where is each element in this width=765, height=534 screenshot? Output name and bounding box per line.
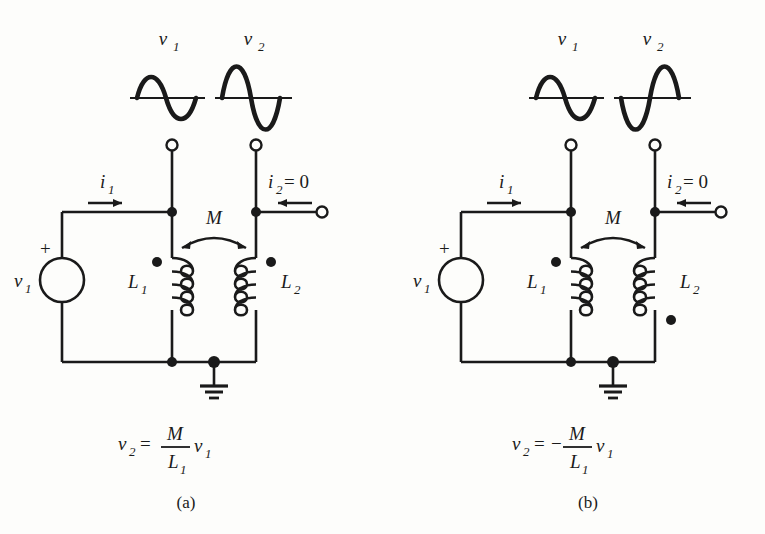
panel-a-waveform-v2-label-text: v (244, 28, 253, 49)
panel-a-waveform-v2 (215, 67, 292, 130)
panel-a-right-terminal-circle[interactable] (317, 207, 328, 218)
panel-a-equation-denominator: L (167, 451, 179, 472)
panel-a-current-i1-sub: 1 (108, 182, 115, 197)
panel-a-current-i2-value: = 0 (284, 171, 309, 192)
panel-a-current-i2-arrow-icon (278, 199, 312, 207)
panel-a-inductor-l1-label: L (127, 271, 139, 292)
panel-a-node-top-right (251, 207, 261, 217)
panel-a-terminal-v2-circle[interactable] (251, 140, 262, 151)
panel-b-current-i2-label: i (667, 171, 672, 192)
panel-b-waveform-v2 (614, 67, 691, 130)
panel-a-right-terminal[interactable] (256, 207, 328, 218)
panel-b-current-i1-arrow-icon (487, 199, 521, 207)
panel-b-terminal-v2-circle[interactable] (650, 140, 661, 151)
figure-container: v 1 v 2 i 1 (0, 0, 765, 534)
panel-b-waveform-v2-label: v 2 (643, 28, 664, 54)
panel-b-equation-rhs-sub: 1 (607, 446, 614, 461)
panel-a-inductor-l1-label-sub: 1 (141, 282, 148, 297)
panel-b-right-terminal[interactable] (655, 207, 727, 218)
panel-b-coupling-m-label: M (604, 207, 622, 228)
panel-a-waveform-v2-label: v 2 (244, 28, 265, 54)
panel-a-current-i2-label: i (268, 171, 273, 192)
panel-a-top-terminal-left[interactable] (167, 140, 178, 213)
panel-a-equation-equals: = (140, 433, 151, 454)
panel-b-waveform-v1-label: v 1 (558, 28, 579, 54)
panel-b-inductor-l2-coil (634, 258, 655, 325)
panel-a-inductor-l1-coil (172, 258, 193, 325)
panel-b-equation-rhs: v (596, 435, 605, 456)
panel-b-waveform-v2-label-sub: 2 (657, 39, 664, 54)
panel-a-current-i1-label: i (100, 171, 105, 192)
panel-b-equation-lhs: v (512, 433, 521, 454)
panel-a-equation-lhs: v (118, 433, 127, 454)
panel-a-voltage-source-label: v (14, 270, 23, 291)
panel-a-equation-numerator: M (166, 423, 184, 444)
panel-b-voltage-source-polarity: + (439, 238, 450, 259)
panel-b-current-i1-label: i (499, 171, 504, 192)
panel-b-current-i2-arrow-icon (677, 199, 711, 207)
panel-a-current-i2-sub: 2 (276, 182, 283, 197)
panel-b-inductor-l1-dot (551, 257, 561, 267)
panel-a-ground-icon (200, 362, 228, 398)
panel-b-ground-icon (599, 362, 627, 398)
panel-b-voltage-source[interactable]: + v 1 (413, 238, 483, 302)
panel-b-voltage-source-symbol[interactable] (439, 258, 483, 302)
panel-a-coupling-m-arc (182, 238, 246, 248)
panel-b-inductor-l2-label-sub: 2 (693, 282, 700, 297)
panel-b-waveform-v1 (529, 77, 604, 119)
panel-a: v 1 v 2 i 1 (14, 28, 328, 512)
panel-a-inductor-l2-label: L (280, 271, 292, 292)
panel-b-current-i2-sub: 2 (675, 182, 682, 197)
panel-b-waveform-v2-label-text: v (643, 28, 652, 49)
panel-b-current-i1: i 1 (487, 171, 521, 207)
panel-a-voltage-source-polarity: + (40, 238, 51, 259)
panel-a-equation-rhs: v (194, 435, 203, 456)
panel-a-coupling-m-label: M (205, 207, 223, 228)
panel-a-current-i1: i 1 (88, 171, 122, 207)
panel-a-inductor-l2: L 2 (235, 257, 301, 325)
panel-a-wiring (62, 212, 256, 362)
panel-b-equation-equals: = (534, 433, 545, 454)
panel-b-coupling-m: M (581, 207, 645, 249)
panel-b-voltage-source-label: v (413, 270, 422, 291)
panel-b-right-terminal-circle[interactable] (716, 207, 727, 218)
panel-b-top-terminal-left[interactable] (566, 140, 577, 213)
panel-b-equation-lhs-sub: 2 (523, 444, 530, 459)
panel-a-equation: v 2 = M L 1 v 1 (118, 423, 212, 477)
panel-b-current-i2-value: = 0 (683, 171, 708, 192)
panel-b-top-terminal-right[interactable] (650, 140, 661, 213)
panel-a-waveform-v1-label-text: v (159, 28, 168, 49)
panel-b-current-i2: i 2 = 0 (667, 171, 711, 207)
panel-b-equation-numerator: M (568, 423, 586, 444)
panel-a-top-terminal-right[interactable] (251, 140, 262, 213)
panel-b-equation-sign: − (551, 433, 562, 454)
panel-a-inductor-l1-dot (152, 257, 162, 267)
panel-a-current-i1-arrow-icon (88, 199, 122, 207)
panel-b-inductor-l2-dot (666, 315, 676, 325)
panel-b-terminal-v1-circle[interactable] (566, 140, 577, 151)
panel-a-inductor-l2-coil (235, 258, 256, 325)
panel-a-terminal-v1-circle[interactable] (167, 140, 178, 151)
panel-b-caption: (b) (578, 493, 598, 512)
panel-b-equation-denominator: L (569, 451, 581, 472)
panel-a-equation-rhs-sub: 1 (205, 446, 212, 461)
panel-b-coupling-m-arrow-right-icon (636, 241, 645, 249)
panel-b: v 1 v 2 i 1 (413, 28, 727, 512)
panel-b-node-bottom-left (566, 357, 576, 367)
panel-b-equation: v 2 = − M L 1 v 1 (512, 423, 614, 477)
panel-a-inductor-l2-label-sub: 2 (294, 282, 301, 297)
panel-a-voltage-source-symbol[interactable] (40, 258, 84, 302)
panel-a-waveform-v1 (130, 77, 205, 119)
panel-b-inductor-l2-label: L (679, 271, 691, 292)
panel-a-equation-lhs-sub: 2 (129, 444, 136, 459)
panel-a-voltage-source-label-sub: 1 (25, 281, 32, 296)
panel-b-inductor-l2: L 2 (634, 258, 700, 325)
panel-b-coupling-m-arc (581, 238, 645, 248)
panel-a-inductor-l2-dot (266, 257, 276, 267)
panel-b-wiring (461, 212, 655, 362)
panel-a-node-bottom-left (167, 357, 177, 367)
panel-a-coupling-m-arrow-left-icon (182, 241, 191, 249)
panel-a-voltage-source[interactable]: + v 1 (14, 238, 84, 302)
panel-b-waveform-v1-label-sub: 1 (572, 39, 579, 54)
panel-a-current-i2: i 2 = 0 (268, 171, 312, 207)
